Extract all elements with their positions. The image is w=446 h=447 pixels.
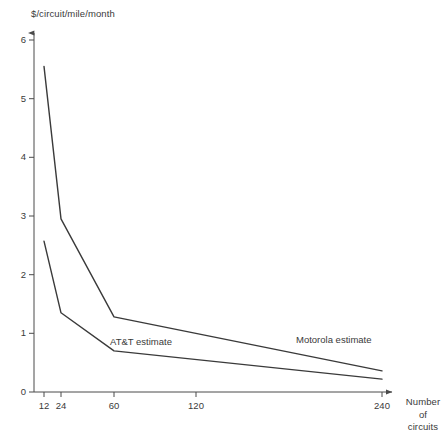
y-tick-label-6: 6 bbox=[12, 34, 26, 45]
chart-plot-area bbox=[0, 0, 446, 447]
y-axis-ticks bbox=[29, 40, 34, 392]
series-label-motorola: Motorola estimate bbox=[296, 334, 372, 345]
x-tick-label-240: 240 bbox=[367, 400, 397, 411]
y-tick-label-3: 3 bbox=[12, 210, 26, 221]
series-line-motorola bbox=[44, 66, 382, 371]
y-tick-label-0: 0 bbox=[12, 386, 26, 397]
x-axis-ticks bbox=[44, 392, 382, 397]
y-axis-title: $/circuit/mile/month bbox=[31, 8, 115, 19]
series-label-att: AT&T estimate bbox=[110, 336, 172, 347]
y-tick-label-5: 5 bbox=[12, 93, 26, 104]
x-axis-title-line-3: circuits bbox=[400, 421, 446, 434]
x-tick-label-60: 60 bbox=[99, 400, 129, 411]
x-axis-title-line-1: Number bbox=[400, 396, 446, 409]
y-tick-label-2: 2 bbox=[12, 269, 26, 280]
x-axis-title-line-2: of bbox=[400, 409, 446, 422]
x-axis-title: Number of circuits bbox=[400, 396, 446, 434]
chart-container: $/circuit/mile/month 0 1 2 3 4 5 6 12 24… bbox=[0, 0, 446, 447]
series-line-att bbox=[44, 241, 382, 379]
y-tick-label-1: 1 bbox=[12, 327, 26, 338]
x-tick-label-120: 120 bbox=[181, 400, 211, 411]
x-tick-label-24: 24 bbox=[46, 400, 76, 411]
y-tick-label-4: 4 bbox=[12, 151, 26, 162]
